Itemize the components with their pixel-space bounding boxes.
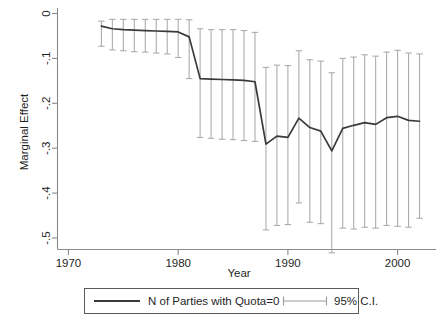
legend-label-series: N of Parties with Quota=0 [148, 295, 279, 307]
chart-legend: N of Parties with Quota=0 95% C.I. [85, 289, 379, 314]
y-tick-label: -.5 [40, 231, 52, 244]
y-tick-label: -.4 [40, 186, 52, 200]
legend-label-ci: 95% C.I. [334, 295, 378, 307]
chart-background [0, 0, 439, 319]
x-axis-title: Year [227, 267, 250, 279]
y-tick-label: -.2 [40, 97, 52, 110]
y-tick-label: -.3 [40, 141, 52, 154]
y-tick-label: -.1 [40, 52, 52, 65]
chart-figure: 0-.1-.2-.3-.4-.5 1970198019902000 Margin… [0, 0, 439, 319]
x-tick-label: 2000 [385, 257, 411, 269]
marginal-effect-line-chart: 0-.1-.2-.3-.4-.5 1970198019902000 Margin… [0, 0, 439, 319]
x-tick-label: 1990 [275, 257, 301, 269]
x-tick-label: 1980 [165, 257, 191, 269]
y-axis-title: Marginal Effect [18, 93, 30, 170]
x-tick-label: 1970 [56, 257, 82, 269]
y-tick-label: 0 [40, 10, 52, 16]
